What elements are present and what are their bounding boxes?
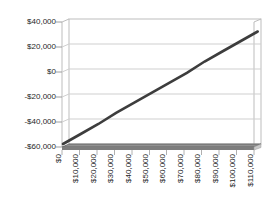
x-tick-label: $100,000	[228, 154, 237, 187]
gridlines	[62, 44, 261, 122]
x-tick-label: $70,000	[176, 154, 185, 183]
x-tick-label: $10,000	[71, 154, 80, 183]
x-tick-label: $30,000	[106, 154, 115, 183]
y-tick-label: $40,000	[6, 17, 56, 26]
profit-line-series	[63, 32, 258, 145]
y-tick-label: -$40,000	[6, 117, 56, 126]
x-tick-label: $110,000	[246, 154, 255, 187]
y-tick-label: $0	[6, 67, 56, 76]
x-tick-label: $40,000	[124, 154, 133, 183]
top-left-depth-edge	[62, 19, 69, 22]
y-tick-label: -$20,000	[6, 92, 56, 101]
breakeven-line-chart: $40,000 $20,000 $0 -$20,000 -$40,000 -$6…	[0, 0, 278, 210]
x-tick-label: $0	[54, 154, 63, 163]
x-tick-label: $90,000	[211, 154, 220, 183]
x-tick-label: $60,000	[158, 154, 167, 183]
x-tick-label: $20,000	[89, 154, 98, 183]
floor-top-face	[62, 144, 261, 147]
y-axis-ticks	[56, 22, 62, 147]
x-tick-label: $80,000	[193, 154, 202, 183]
y-tick-label: $20,000	[6, 42, 56, 51]
floor-front-face	[62, 147, 254, 150]
y-tick-label: -$60,000	[6, 142, 56, 151]
chart-floor	[62, 144, 261, 150]
x-tick-label: $50,000	[141, 154, 150, 183]
